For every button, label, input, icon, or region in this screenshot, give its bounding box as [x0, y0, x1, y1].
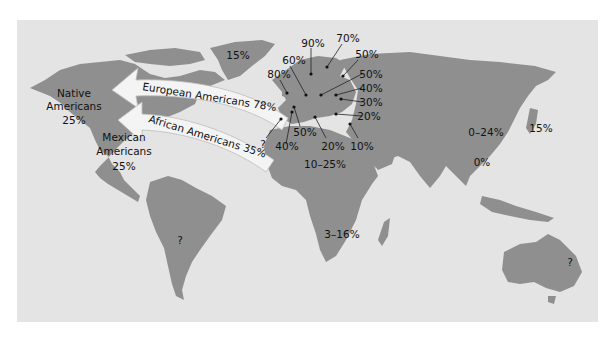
- world-map: European Americans 78% African Americans…: [0, 0, 615, 351]
- southeast-asia-label: 0%: [474, 156, 491, 168]
- australia-label: ?: [567, 256, 573, 268]
- europe-label-denmark: 60%: [282, 54, 305, 66]
- europe-label-france: 50%: [293, 126, 316, 138]
- south-america-label: ?: [177, 234, 183, 246]
- europe-label-finland: 70%: [336, 32, 359, 44]
- mexican-americans-label-3: 25%: [112, 160, 135, 172]
- europe-label-portugal: ?: [260, 138, 266, 150]
- china-label: 0–24%: [468, 126, 503, 138]
- europe-label-italy: 20%: [321, 140, 344, 152]
- native-americans-label-3: 25%: [62, 114, 85, 126]
- europe-label-poland: 50%: [359, 68, 382, 80]
- north-africa-label: 10–25%: [304, 158, 346, 170]
- europe-label-russia-south: 30%: [359, 96, 382, 108]
- europe-label-ukraine: 40%: [359, 82, 382, 94]
- europe-label-turkey: 10%: [350, 140, 373, 152]
- native-americans-label-2: Americans: [46, 100, 101, 112]
- african-americans-label: African Americans 35%: [147, 112, 267, 159]
- europe-label-russia-north: 50%: [355, 48, 378, 60]
- mexican-americans-label-2: Americans: [96, 145, 151, 157]
- greenland-label: 15%: [226, 49, 249, 61]
- madagascar: [378, 218, 390, 246]
- europe-label-britain: 80%: [267, 68, 290, 80]
- tasmania: [548, 296, 556, 304]
- indonesia: [480, 196, 554, 222]
- europe-label-scandinavia: 90%: [301, 37, 324, 49]
- native-americans-label-1: Native: [57, 87, 91, 99]
- canadian-arctic: [125, 48, 205, 66]
- south-america: [146, 176, 226, 300]
- europe-label-spain: 40%: [275, 140, 298, 152]
- southern-africa-label: 3–16%: [324, 228, 359, 240]
- mexican-americans-label-1: Mexican: [102, 131, 145, 143]
- europe-label-balkans: 20%: [357, 110, 380, 122]
- japan-label: 15%: [529, 122, 552, 134]
